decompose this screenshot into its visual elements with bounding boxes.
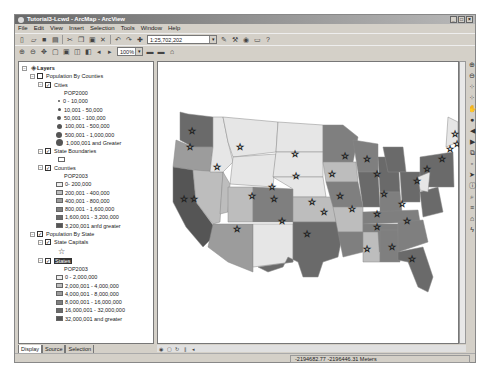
menu-edit[interactable]: Edit xyxy=(34,24,44,33)
collapse-icon[interactable]: − xyxy=(30,74,35,79)
identify-icon[interactable]: ⓘ xyxy=(468,182,476,190)
full-extent-icon[interactable]: ● xyxy=(468,116,476,124)
open-icon[interactable]: ▱ xyxy=(29,36,37,44)
change-layout-icon[interactable]: ⌂ xyxy=(168,48,176,56)
add-data-icon[interactable]: ✚ xyxy=(136,36,144,44)
menu-view[interactable]: View xyxy=(50,24,63,33)
legend-class: 500,001 - 1,000,000 xyxy=(22,130,150,138)
undo-icon[interactable]: ↶ xyxy=(114,36,122,44)
forward-extent-icon[interactable]: ▶ xyxy=(468,138,476,146)
map-horizontal-scrollbar[interactable]: ◉ ▢ ↻ ∥ ◂ xyxy=(157,345,466,352)
print-icon[interactable]: ▤ xyxy=(51,36,59,44)
group-population-by-counties[interactable]: − Population By Counties xyxy=(22,72,150,80)
data-view-icon[interactable]: ◉ xyxy=(157,345,165,353)
zoom-in-icon[interactable]: ⊕ xyxy=(468,61,476,69)
scroll-left-icon[interactable]: ◂ xyxy=(189,345,197,353)
find-icon[interactable]: ⌕ xyxy=(468,193,476,201)
svg-text:☆: ☆ xyxy=(268,182,276,192)
map-scale-combobox[interactable]: 1:25,702,202 ▾ xyxy=(147,35,217,44)
layout-zoom-out-icon[interactable]: ⊖ xyxy=(29,48,37,56)
back-extent-icon[interactable]: ◀ xyxy=(468,127,476,135)
editor-toolbar-icon[interactable]: ✎ xyxy=(220,36,228,44)
chevron-down-icon[interactable]: ▾ xyxy=(209,36,216,43)
new-icon[interactable]: ▯ xyxy=(18,36,26,44)
hyperlink-icon[interactable]: ⌂ xyxy=(468,215,476,223)
menu-tools[interactable]: Tools xyxy=(121,24,135,33)
layer-cities[interactable]: − ✓ Cities xyxy=(22,81,150,89)
layer-states[interactable]: − ✓ States xyxy=(22,257,150,265)
arctoolbox-icon[interactable]: ⚒ xyxy=(231,36,239,44)
collapse-icon[interactable]: − xyxy=(22,66,27,71)
fixed-zoom-in-icon[interactable]: ⁘ xyxy=(468,83,476,91)
close-button[interactable]: × xyxy=(466,16,473,23)
layer-state-boundaries[interactable]: − ✓ State Boundaries xyxy=(22,147,150,155)
menu-insert[interactable]: Insert xyxy=(69,24,84,33)
zoom-100-icon[interactable]: ▣ xyxy=(62,48,70,56)
checkbox[interactable]: ✓ xyxy=(37,231,43,237)
select-elements-icon[interactable]: ➤ xyxy=(468,171,476,179)
layout-zoom-in-icon[interactable]: ⊕ xyxy=(18,48,26,56)
lightning-icon[interactable]: ϟ xyxy=(468,226,476,234)
save-icon[interactable]: ■ xyxy=(40,36,48,44)
fixed-zoom-in-icon[interactable]: ◫ xyxy=(73,48,81,56)
svg-text:☆: ☆ xyxy=(336,191,344,201)
checkbox[interactable]: ✓ xyxy=(45,165,51,171)
class-label: 8,000,001 - 16,000,000 xyxy=(65,299,122,305)
map-vertical-scrollbar[interactable] xyxy=(459,61,466,344)
menu-window[interactable]: Window xyxy=(141,24,162,33)
collapse-icon[interactable]: − xyxy=(38,82,43,87)
arccatalog-icon[interactable]: ◉ xyxy=(242,36,250,44)
maximize-button[interactable]: □ xyxy=(458,16,465,23)
layout-zoom-combobox[interactable]: 100% ▾ xyxy=(117,47,143,56)
checkbox[interactable]: ✓ xyxy=(45,258,51,264)
group-population-by-state[interactable]: − ✓ Population By State xyxy=(22,230,150,238)
minimize-button[interactable]: _ xyxy=(450,16,457,23)
svg-text:☆: ☆ xyxy=(233,224,241,234)
select-features-icon[interactable]: ⧉ xyxy=(468,149,476,157)
menu-help[interactable]: Help xyxy=(168,24,180,33)
focus-frame-icon[interactable]: ▬ xyxy=(157,48,165,56)
checkbox[interactable]: ✓ xyxy=(45,239,51,245)
collapse-icon[interactable]: − xyxy=(38,165,43,170)
menu-selection[interactable]: Selection xyxy=(90,24,115,33)
cut-icon[interactable]: ✂ xyxy=(66,36,74,44)
redo-icon[interactable]: ↷ xyxy=(125,36,133,44)
whats-this-icon[interactable]: ? xyxy=(264,36,272,44)
zoom-out-icon[interactable]: ⊖ xyxy=(468,72,476,80)
menu-file[interactable]: File xyxy=(18,24,28,33)
legend-class: 2,000,001 - 4,000,000 xyxy=(22,281,150,289)
refresh-icon[interactable]: ↻ xyxy=(173,345,181,353)
clear-selection-icon[interactable]: ▫ xyxy=(468,160,476,168)
collapse-icon[interactable]: − xyxy=(38,240,43,245)
fixed-zoom-out-icon[interactable]: ◧ xyxy=(84,48,92,56)
layout-view-icon[interactable]: ▢ xyxy=(165,345,173,353)
delete-icon[interactable]: ✕ xyxy=(99,36,107,44)
class-label: 400,001 - 800,000 xyxy=(65,198,110,204)
polygon-symbol-icon xyxy=(56,291,63,296)
paste-icon[interactable]: ▣ xyxy=(88,36,96,44)
checkbox[interactable]: ✓ xyxy=(45,148,51,154)
layout-pan-icon[interactable]: ✥ xyxy=(40,48,48,56)
collapse-icon[interactable]: − xyxy=(38,258,43,263)
map-view[interactable]: ☆☆☆ ☆☆☆ ☆☆☆ ☆☆☆ ☆☆☆ ☆☆☆ ☆☆☆ ☆☆☆ ☆☆☆ ☆☆☆ … xyxy=(157,61,459,344)
measure-icon[interactable]: ≡ xyxy=(468,204,476,212)
checkbox[interactable] xyxy=(37,73,43,79)
command-line-icon[interactable]: ▭ xyxy=(253,36,261,44)
pause-icon[interactable]: ∥ xyxy=(181,345,189,353)
chevron-down-icon[interactable]: ▾ xyxy=(135,48,142,55)
back-extent-icon[interactable]: ◂ xyxy=(95,48,103,56)
layer-counties[interactable]: − ✓ Counties xyxy=(22,164,150,172)
class-label: 3,200,001 anfd greater xyxy=(65,223,121,229)
menu-bar: File Edit View Insert Selection Tools Wi… xyxy=(15,24,475,33)
copy-icon[interactable]: ❐ xyxy=(77,36,85,44)
checkbox[interactable]: ✓ xyxy=(45,82,51,88)
toggle-draft-icon[interactable]: ▬ xyxy=(146,48,154,56)
zoom-whole-page-icon[interactable]: ▢ xyxy=(51,48,59,56)
collapse-icon[interactable]: − xyxy=(38,149,43,154)
pan-icon[interactable]: ✋ xyxy=(468,105,476,113)
forward-extent-icon[interactable]: ▸ xyxy=(106,48,114,56)
svg-text:☆: ☆ xyxy=(190,194,198,204)
collapse-icon[interactable]: − xyxy=(30,232,35,237)
fixed-zoom-out-icon[interactable]: ⁘ xyxy=(468,94,476,102)
layer-state-capitals[interactable]: − ✓ State Capitals xyxy=(22,238,150,246)
